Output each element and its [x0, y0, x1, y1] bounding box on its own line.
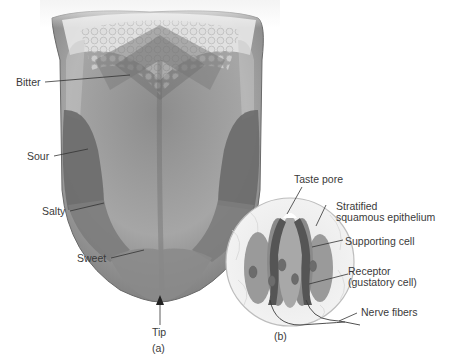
label-epithelium-line2: squamous epithelium [336, 211, 435, 223]
label-salty: Salty [42, 205, 65, 217]
label-supporting-cell: Supporting cell [345, 235, 414, 247]
caption-b: (b) [274, 330, 287, 342]
label-tip: Tip [152, 326, 166, 338]
label-bitter: Bitter [16, 76, 41, 88]
label-sweet: Sweet [77, 252, 106, 264]
label-nerve-fibers: Nerve fibers [361, 306, 418, 318]
nerve-fibers-leader [339, 313, 357, 321]
label-sour: Sour [27, 150, 49, 162]
label-taste-pore: Taste pore [294, 173, 343, 185]
sweet-region [110, 249, 212, 302]
caption-a: (a) [152, 342, 165, 354]
diagram-canvas [0, 0, 451, 356]
label-receptor-line2: (gustatory cell) [348, 276, 417, 288]
